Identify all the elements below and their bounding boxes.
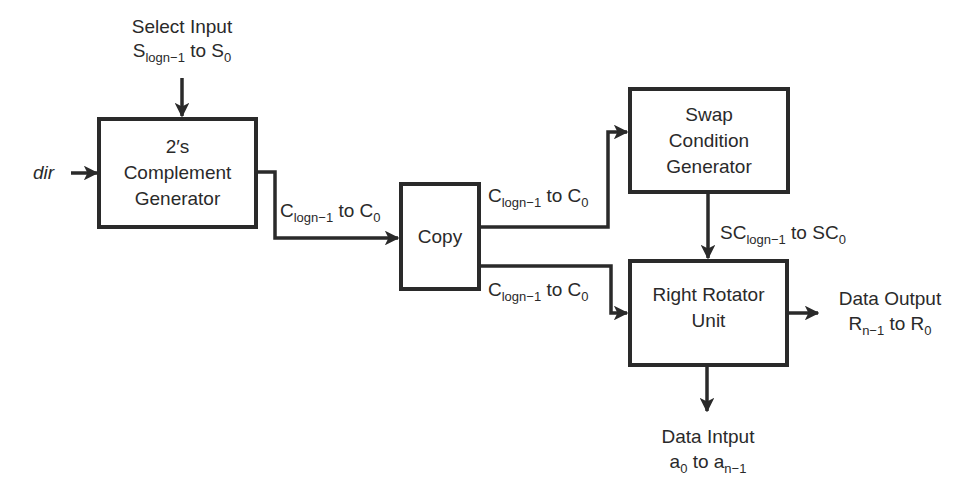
c-bus-to-copy-label: Clogn−1 to C0 bbox=[280, 200, 381, 222]
rotator-line1: Right Rotator bbox=[653, 282, 765, 308]
data-output-title: Data Output bbox=[825, 288, 955, 310]
complement-generator-label: 2′s Complement Generator bbox=[99, 133, 256, 213]
diagram-canvas bbox=[0, 0, 973, 496]
complement-line2: Complement bbox=[124, 160, 232, 186]
complement-line1: 2′s bbox=[166, 134, 190, 160]
copy-label: Copy bbox=[401, 184, 479, 289]
data-output-range: Rn−1 to R0 bbox=[825, 313, 955, 335]
data-input-range: a0 to an−1 bbox=[638, 451, 778, 473]
rotator-line2: Unit bbox=[692, 308, 726, 334]
dir-label: dir bbox=[33, 162, 54, 184]
select-input-label: Select Input Slogn−1 to S0 bbox=[102, 16, 262, 62]
right-rotator-unit-label: Right Rotator Unit bbox=[630, 281, 787, 335]
c-bus-to-rotator-label: Clogn−1 to C0 bbox=[488, 279, 589, 301]
c-bus-to-swap-label: Clogn−1 to C0 bbox=[488, 185, 589, 207]
copy-text: Copy bbox=[418, 224, 462, 250]
complement-line3: Generator bbox=[135, 186, 221, 212]
swap-line1: Swap bbox=[685, 102, 733, 128]
swap-line2: Condition bbox=[669, 128, 749, 154]
c-bus-to-swap bbox=[480, 132, 627, 227]
data-output-label: Data Output Rn−1 to R0 bbox=[825, 288, 955, 335]
data-input-title: Data Intput bbox=[638, 426, 778, 448]
select-input-range: Slogn−1 to S0 bbox=[102, 40, 262, 62]
data-input-label: Data Intput a0 to an−1 bbox=[638, 426, 778, 473]
sc-bus-label: SClogn−1 to SC0 bbox=[720, 222, 846, 244]
swap-condition-generator-label: Swap Condition Generator bbox=[630, 101, 788, 181]
swap-line3: Generator bbox=[666, 154, 752, 180]
select-input-title: Select Input bbox=[102, 16, 262, 38]
